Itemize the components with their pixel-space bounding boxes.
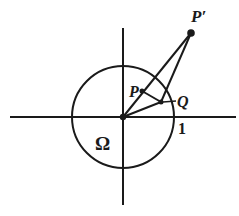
label-p: P (128, 83, 139, 100)
point-p (140, 89, 145, 94)
label-p-prime: P′ (190, 7, 206, 26)
inversion-diagram: P′ P Q 1 Ω (0, 0, 239, 216)
segment-p-to-q (142, 91, 161, 102)
q-label-leader (163, 101, 176, 102)
segment-q-to-p-prime (161, 33, 191, 102)
label-one: 1 (178, 120, 186, 137)
label-omega: Ω (95, 133, 110, 154)
point-q (159, 100, 164, 105)
point-p-prime (187, 29, 195, 37)
point-origin (120, 114, 126, 120)
label-q: Q (177, 93, 189, 110)
